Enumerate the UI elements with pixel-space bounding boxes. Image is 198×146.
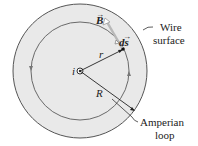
label-r: r xyxy=(99,49,103,60)
label-loop: loop xyxy=(155,130,175,141)
label-R: R xyxy=(96,88,103,99)
label-current: i xyxy=(72,66,75,77)
label-wire: Wire xyxy=(160,22,182,33)
label-surface: surface xyxy=(153,35,185,46)
label-amperian: Amperian xyxy=(140,117,184,128)
vector-arrow-icon: → xyxy=(96,10,104,19)
vector-arrow-icon: → xyxy=(123,32,131,41)
wire-surface-leader xyxy=(143,27,153,30)
